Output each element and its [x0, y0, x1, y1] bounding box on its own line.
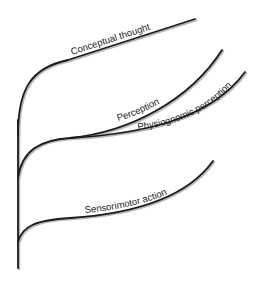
developmental-branching-diagram: Conceptual thought Perception Physiognom… [0, 0, 256, 282]
branch-shadows [19, 20, 246, 269]
